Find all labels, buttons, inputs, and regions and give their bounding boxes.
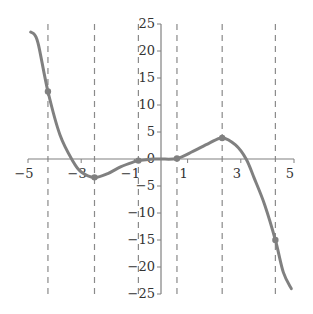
data-point: [91, 174, 97, 180]
x-tick-label: 1: [179, 166, 187, 181]
data-point: [45, 88, 51, 94]
data-point: [272, 237, 278, 243]
y-tick-label: 5: [147, 124, 155, 139]
y-tick-label: 15: [138, 70, 155, 85]
function-plot: −5−3−11352520151050−5−10−15−20−25: [0, 0, 313, 314]
y-tick-label: 10: [138, 97, 155, 112]
y-tick-label: −5: [136, 178, 155, 193]
data-point: [174, 155, 180, 161]
y-tick-label: −25: [128, 286, 155, 301]
data-point: [219, 135, 225, 141]
x-tick-label: 5: [286, 166, 294, 181]
x-tick-label: −5: [14, 166, 33, 181]
y-tick-label: 25: [138, 16, 155, 31]
data-point: [135, 157, 141, 163]
y-tick-label: −10: [128, 205, 155, 220]
y-tick-label: −20: [128, 259, 155, 274]
y-tick-label: −15: [128, 232, 155, 247]
x-tick-label: 3: [233, 166, 241, 181]
y-tick-label: 20: [138, 43, 155, 58]
